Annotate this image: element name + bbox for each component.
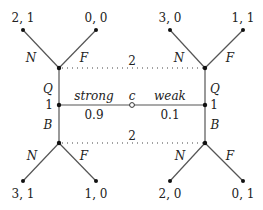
action-label-F: F xyxy=(79,149,89,163)
nature-move-strong: strong xyxy=(74,89,114,103)
node-p2-top-right xyxy=(203,66,207,70)
terminal-node xyxy=(241,179,245,183)
edge-bottom-left-F xyxy=(59,143,96,181)
action-label-N: N xyxy=(26,149,38,163)
chance-label-c: c xyxy=(129,89,136,103)
node-p2-top-left xyxy=(57,66,61,70)
action-label-F: F xyxy=(79,51,89,65)
node-p2-bottom-right xyxy=(203,141,207,145)
payoff-top-left-N: 2, 1 xyxy=(12,11,35,25)
action-label-F: F xyxy=(225,51,235,65)
payoff-bottom-left-N: 3, 1 xyxy=(12,187,35,201)
terminal-node xyxy=(94,28,98,32)
action-label-Q: Q xyxy=(43,82,53,96)
payoff-top-right-F: 1, 1 xyxy=(232,11,255,25)
player-label-1: 1 xyxy=(45,98,53,112)
info-set-label-2: 2 xyxy=(128,129,136,143)
payoff-bottom-right-F: 0, 1 xyxy=(232,187,255,201)
action-label-N: N xyxy=(174,149,186,163)
terminal-node xyxy=(168,28,172,32)
action-label-B: B xyxy=(43,118,53,132)
terminal-node xyxy=(168,179,172,183)
payoff-top-left-F: 0, 0 xyxy=(85,11,108,25)
node-p2-bottom-left xyxy=(57,141,61,145)
action-label-N: N xyxy=(25,51,37,65)
terminal-node xyxy=(21,28,25,32)
terminal-node xyxy=(241,28,245,32)
player-label-1: 1 xyxy=(210,98,218,112)
payoff-bottom-left-F: 1, 0 xyxy=(85,187,108,201)
node-p1-right xyxy=(203,103,207,107)
terminal-node xyxy=(21,179,25,183)
info-set-label-2: 2 xyxy=(128,54,136,68)
edge-top-left-F xyxy=(59,30,96,68)
payoff-bottom-right-N: 2, 0 xyxy=(159,187,182,201)
game-tree-diagram: 2, 1 0, 0 3, 0 1, 1 3, 1 1, 0 2, 0 0, 1 … xyxy=(0,0,263,210)
edge-bottom-right-F xyxy=(205,143,243,181)
payoff-top-right-N: 3, 0 xyxy=(159,11,182,25)
action-label-F: F xyxy=(225,149,235,163)
nature-move-weak: weak xyxy=(154,89,186,103)
action-label-Q: Q xyxy=(210,82,220,96)
prob-weak: 0.1 xyxy=(160,108,179,122)
prob-strong: 0.9 xyxy=(84,108,103,122)
edge-top-right-F xyxy=(205,30,243,68)
action-label-N: N xyxy=(173,51,185,65)
action-label-B: B xyxy=(210,118,220,132)
terminal-node xyxy=(94,179,98,183)
chance-node xyxy=(130,103,135,108)
node-p1-left xyxy=(57,103,61,107)
